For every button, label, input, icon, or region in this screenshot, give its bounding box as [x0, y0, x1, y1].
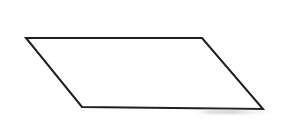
parallelogram-drawing	[0, 0, 286, 134]
figure-canvas	[0, 0, 286, 134]
parallelogram-shape	[26, 38, 263, 109]
